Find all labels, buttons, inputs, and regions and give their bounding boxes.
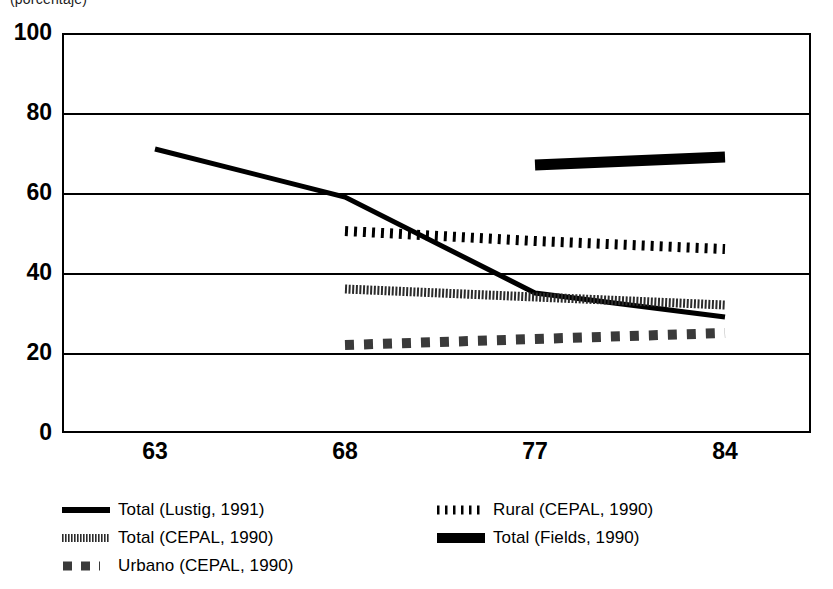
x-axis-labels: 63 68 77 84	[62, 440, 811, 470]
gridline-20	[64, 353, 809, 355]
x-tick-68: 68	[305, 440, 385, 463]
legend-item-rural-cepal[interactable]: Rural (CEPAL, 1990)	[435, 496, 815, 524]
legend-column-left: Total (Lustig, 1991) Total (CEPAL, 1990)…	[60, 496, 420, 580]
legend-label-rural-cepal: Rural (CEPAL, 1990)	[493, 500, 653, 520]
y-axis-labels: 100 80 60 40 20 0	[0, 33, 52, 433]
dotted-line-icon	[435, 501, 487, 519]
plot-area	[62, 33, 811, 433]
legend-column-right: Rural (CEPAL, 1990) Total (Fields, 1990)	[435, 496, 815, 552]
chart-legend: Total (Lustig, 1991) Total (CEPAL, 1990)…	[60, 496, 820, 582]
legend-label-urbano-cepal: Urbano (CEPAL, 1990)	[118, 556, 294, 576]
legend-item-total-fields[interactable]: Total (Fields, 1990)	[435, 524, 815, 552]
x-tick-77: 77	[495, 440, 575, 463]
legend-label-total-lustig: Total (Lustig, 1991)	[118, 500, 265, 520]
y-tick-80: 80	[0, 101, 52, 124]
x-tick-63: 63	[115, 440, 195, 463]
y-tick-60: 60	[0, 181, 52, 204]
legend-item-urbano-cepal[interactable]: Urbano (CEPAL, 1990)	[60, 552, 420, 580]
chart-container: (porcentaje) 100 80 60 40 20 0 63 68 77 …	[0, 0, 833, 589]
y-tick-20: 20	[0, 341, 52, 364]
y-tick-40: 40	[0, 261, 52, 284]
y-tick-100: 100	[0, 21, 52, 44]
gridline-40	[64, 273, 809, 275]
legend-label-total-cepal: Total (CEPAL, 1990)	[118, 528, 274, 548]
x-tick-84: 84	[685, 440, 765, 463]
dense-dotted-line-icon	[60, 529, 112, 547]
gridline-60	[64, 193, 809, 195]
legend-label-total-fields: Total (Fields, 1990)	[493, 528, 640, 548]
cropped-title-text: (porcentaje)	[10, 0, 310, 7]
solid-extra-thick-line-icon	[435, 529, 487, 547]
dashed-square-line-icon	[60, 557, 112, 575]
solid-thick-line-icon	[60, 501, 112, 519]
legend-item-total-lustig[interactable]: Total (Lustig, 1991)	[60, 496, 420, 524]
y-tick-0: 0	[0, 421, 52, 444]
gridline-80	[64, 113, 809, 115]
legend-item-total-cepal[interactable]: Total (CEPAL, 1990)	[60, 524, 420, 552]
